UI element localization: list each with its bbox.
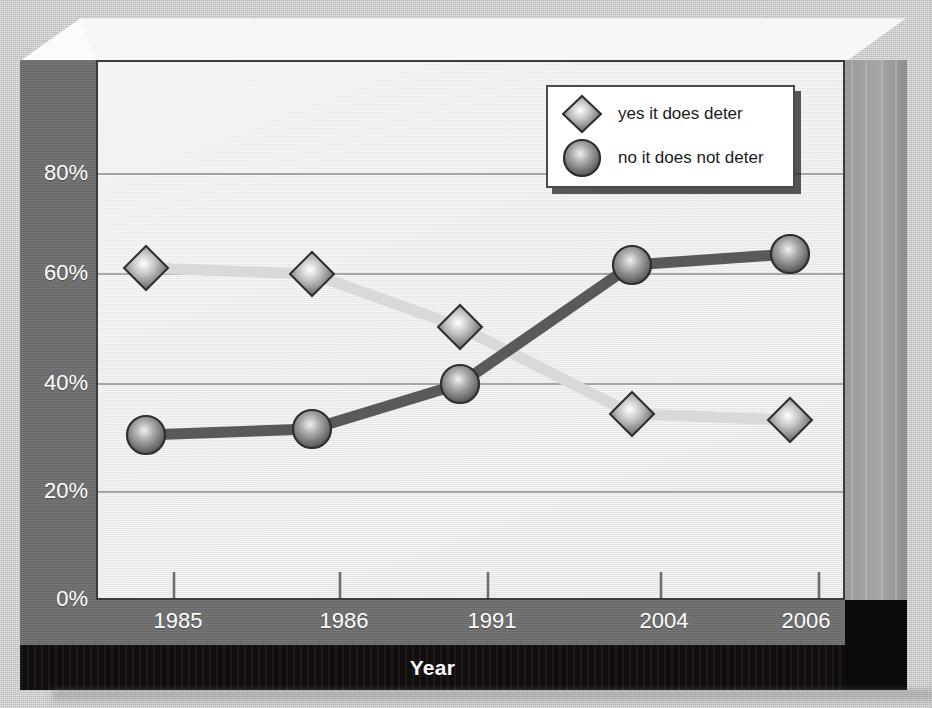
- x-axis-band: [20, 600, 845, 645]
- y-tick-20: 20%: [20, 478, 96, 504]
- y-axis-tick-labels: 80% 60% 40% 20% 0%: [20, 0, 96, 708]
- legend-item-no: no it does not deter: [560, 137, 788, 179]
- y-tick-0: 0%: [20, 586, 96, 612]
- legend-label-no: no it does not deter: [618, 148, 764, 168]
- x-tick-2004: 2004: [640, 608, 689, 634]
- chart-3d-bottom-bevel: [845, 600, 907, 646]
- x-axis-band-texture: [20, 600, 845, 645]
- x-tick-2006: 2006: [782, 608, 831, 634]
- chart-3d-right-face: [845, 60, 907, 660]
- y-tick-60: 60%: [20, 260, 96, 286]
- y-tick-80: 80%: [20, 160, 96, 186]
- legend-item-yes: yes it does deter: [560, 93, 788, 135]
- chart-3d-top-face: [18, 18, 906, 62]
- x-tick-1986: 1986: [320, 608, 369, 634]
- x-tick-1985: 1985: [154, 608, 203, 634]
- legend: yes it does deter no it does not deter: [546, 85, 795, 188]
- legend-label-yes: yes it does deter: [618, 104, 743, 124]
- y-tick-40: 40%: [20, 370, 96, 396]
- circle-marker-icon: [560, 138, 604, 178]
- x-axis-title: Year: [20, 645, 845, 690]
- x-tick-1991: 1991: [468, 608, 517, 634]
- series-line-no: [146, 254, 790, 435]
- diamond-marker-icon: [560, 94, 604, 134]
- x-tick-marks: [174, 572, 819, 598]
- chart-drop-shadow: [52, 690, 932, 706]
- x-axis-title-band-side: [845, 645, 907, 690]
